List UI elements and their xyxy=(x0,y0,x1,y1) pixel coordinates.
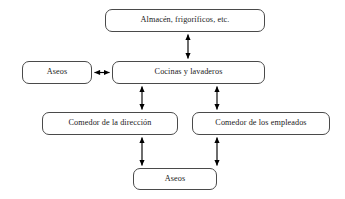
node-aseos-superior[interactable]: Aseos xyxy=(22,61,92,84)
node-comedor-empleados[interactable]: Comedor de los empleados xyxy=(192,112,330,135)
flowchart-diagram: Almacén, frigoríficos, etc. Aseos Cocina… xyxy=(0,0,345,199)
node-label: Aseos xyxy=(44,68,71,77)
node-label: Comedor de la dirección xyxy=(65,119,154,128)
node-comedor-direccion[interactable]: Comedor de la dirección xyxy=(42,112,178,135)
node-label: Almacén, frigoríficos, etc. xyxy=(138,16,233,25)
node-almacen-frigorificos[interactable]: Almacén, frigoríficos, etc. xyxy=(105,9,265,32)
node-label: Comedor de los empleados xyxy=(212,119,309,128)
node-label: Aseos xyxy=(162,175,189,184)
node-cocinas-lavaderos[interactable]: Cocinas y lavaderos xyxy=(112,61,265,84)
node-aseos-inferior[interactable]: Aseos xyxy=(133,168,217,190)
node-label: Cocinas y lavaderos xyxy=(152,68,226,77)
